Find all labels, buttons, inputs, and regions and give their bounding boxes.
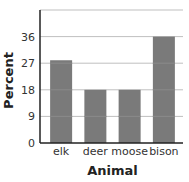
y-tick-label: 36 [21, 31, 35, 44]
y-axis-title: Percent [1, 52, 16, 109]
x-tick-label: elk [53, 145, 70, 158]
x-tick-label: bison [149, 145, 178, 158]
bar-elk [50, 60, 72, 143]
x-tick-label: moose [111, 145, 148, 158]
y-tick-label: 0 [28, 137, 35, 150]
x-axis-title: Animal [87, 163, 138, 178]
y-tick-label: 18 [21, 84, 35, 97]
y-tick-label: 27 [21, 57, 35, 70]
x-tick-label: deer [83, 145, 109, 158]
y-tick-label: 9 [28, 110, 35, 123]
bar-chart: 09182736elkdeermoosebisonAnimalPercent [0, 0, 189, 182]
